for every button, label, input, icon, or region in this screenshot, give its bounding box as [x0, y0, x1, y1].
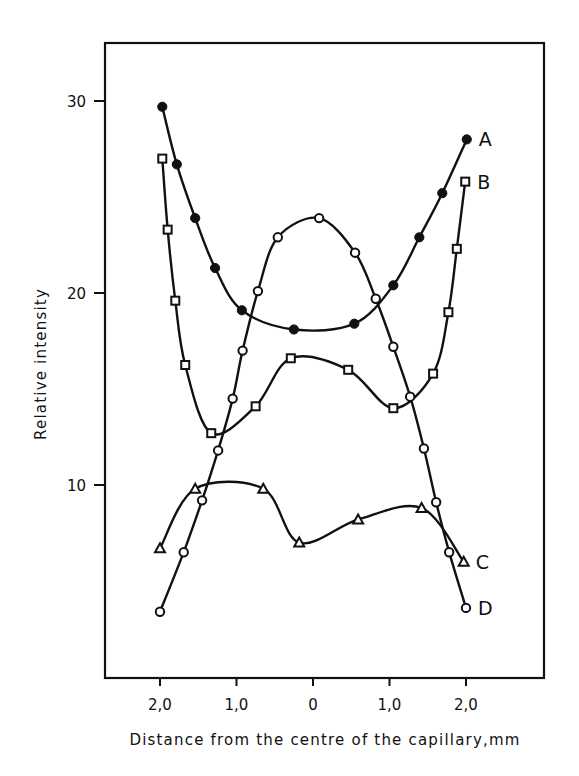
series-b-marker	[287, 354, 295, 362]
x-axis-label: Distance from the centre of the capillar…	[129, 731, 520, 749]
series-d-marker	[406, 392, 414, 400]
series-b-marker	[344, 366, 352, 374]
series-a-marker	[237, 306, 246, 315]
series-d-marker	[198, 496, 206, 504]
x-tick-label: 2,0	[148, 696, 172, 714]
y-axis-label: Relative intensity	[32, 288, 50, 440]
series-c-marker	[417, 503, 427, 512]
series-b-marker	[171, 297, 179, 305]
series-d-marker	[156, 608, 164, 616]
series-a-marker	[389, 281, 398, 290]
series-b-marker	[164, 226, 172, 234]
series-d-curve	[160, 218, 466, 612]
y-tick-label: 30	[67, 93, 86, 111]
series-b-marker	[453, 245, 461, 253]
series-c-marker	[190, 484, 200, 493]
series-a-marker	[158, 102, 167, 111]
series-d-marker	[228, 394, 236, 402]
series-d-marker	[274, 233, 282, 241]
series-d-marker	[351, 248, 359, 256]
series-a-marker	[438, 189, 447, 198]
x-tick-label: 2,0	[454, 696, 478, 714]
series-a-marker	[210, 263, 219, 272]
series-b-label: B	[477, 171, 490, 193]
series-curves	[160, 107, 467, 612]
series-a-marker	[191, 214, 200, 223]
chart: 102030 2,01,001,02,0 ABCD Distance from …	[0, 0, 579, 776]
series-d-marker	[180, 548, 188, 556]
series-d-marker	[462, 604, 470, 612]
series-b-marker	[444, 308, 452, 316]
x-tick-label: 1,0	[225, 696, 249, 714]
series-b-marker	[461, 178, 469, 186]
series-d-marker	[432, 498, 440, 506]
series-c-label: C	[476, 551, 489, 573]
series-b-marker	[181, 361, 189, 369]
series-c-marker	[294, 538, 304, 547]
series-b-marker	[207, 429, 215, 437]
series-a-marker	[415, 233, 424, 242]
x-tick-label: 1,0	[378, 696, 402, 714]
series-a-marker	[289, 325, 298, 334]
series-a-marker	[350, 319, 359, 328]
y-axis: 102030	[67, 93, 105, 495]
series-d-marker	[372, 295, 380, 303]
series-b-marker	[158, 155, 166, 163]
series-d-marker	[445, 548, 453, 556]
x-tick-label: 0	[308, 696, 318, 714]
series-b-marker	[252, 402, 260, 410]
series-c-marker	[353, 515, 363, 524]
series-b-curve	[162, 159, 465, 435]
series-c-marker	[155, 543, 165, 552]
series-d-marker	[214, 446, 222, 454]
series-b-marker	[429, 370, 437, 378]
series-markers	[155, 102, 471, 616]
series-d-marker	[238, 346, 246, 354]
series-a-marker	[172, 160, 181, 169]
y-tick-label: 10	[67, 477, 86, 495]
series-c-marker	[258, 484, 268, 493]
series-labels: ABCD	[476, 128, 493, 618]
series-a-label: A	[479, 128, 492, 150]
series-d-marker	[315, 214, 323, 222]
series-b-marker	[389, 404, 397, 412]
series-a-marker	[462, 135, 471, 144]
series-d-label: D	[478, 597, 493, 619]
y-tick-label: 20	[67, 285, 86, 303]
series-d-marker	[254, 287, 262, 295]
series-d-marker	[389, 343, 397, 351]
x-axis: 2,01,001,02,0	[148, 678, 478, 714]
series-d-marker	[420, 444, 428, 452]
